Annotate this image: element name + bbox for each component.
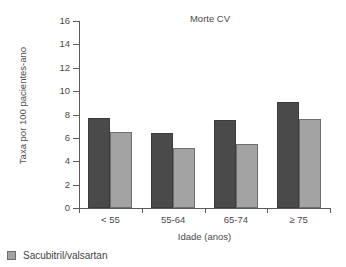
legend-swatch-sacubitril-valsartan (7, 251, 16, 260)
y-axis-tick-label: 10 (59, 85, 70, 96)
bar (214, 120, 236, 208)
y-axis-tick-label: 16 (59, 15, 70, 26)
bars-layer (79, 21, 330, 208)
bar (88, 118, 110, 208)
y-axis-tick-label: 4 (65, 155, 70, 166)
bar (299, 119, 321, 208)
chart-legend: Sacubitril/valsartan (7, 250, 107, 261)
x-axis-group-label: ≥ 75 (259, 214, 339, 225)
y-axis-tick-label: 2 (65, 179, 70, 190)
x-axis-tick-mark (330, 208, 331, 213)
y-axis-tick-label: 0 (65, 202, 70, 213)
bar (236, 144, 258, 208)
x-axis-tick-mark (205, 208, 206, 213)
x-axis-tick-mark (142, 208, 143, 213)
x-axis-title: Idade (anos) (79, 231, 330, 242)
chart-figure: Morte CV 0246810121416 Taxa por 100 paci… (0, 0, 346, 267)
bar (110, 132, 132, 208)
x-axis-tick-mark (79, 208, 80, 213)
bar (277, 102, 299, 208)
y-axis-tick-label: 6 (65, 132, 70, 143)
y-axis-tick-label: 8 (65, 109, 70, 120)
x-axis-tick-mark (267, 208, 268, 213)
legend-label-sacubitril-valsartan: Sacubitril/valsartan (23, 250, 107, 261)
bar (173, 148, 195, 208)
y-axis-title: Taxa por 100 pacientes-ano (17, 21, 28, 191)
bar (151, 133, 173, 208)
y-axis-tick-label: 14 (59, 38, 70, 49)
y-axis-tick-label: 12 (59, 62, 70, 73)
